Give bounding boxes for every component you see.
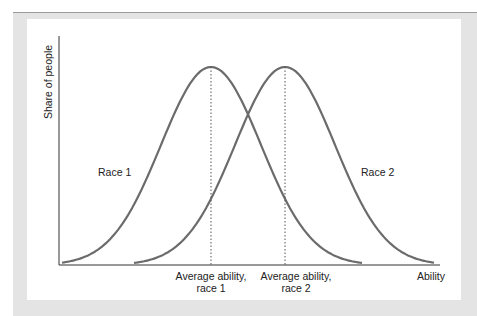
race2-curve [134,67,434,263]
x-axis-label: Ability [417,270,445,282]
race1-curve [62,67,362,263]
mean1-label-line2: race 1 [166,282,256,294]
mean2-label-line2: race 2 [251,282,341,294]
mean2-label-line1: Average ability, [251,270,341,282]
race2-label: Race 2 [361,166,394,178]
mean1-label-line1: Average ability, [166,270,256,282]
mean1-label: Average ability, race 1 [166,270,256,294]
mean2-label: Average ability, race 2 [251,270,341,294]
race1-label: Race 1 [98,166,131,178]
y-axis-label: Share of people [42,32,54,132]
